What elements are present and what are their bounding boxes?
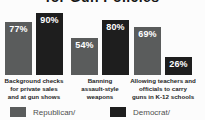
- category-label-0: Background checksfor private salesand at…: [0, 77, 69, 101]
- bar-democrat-2: 26%: [165, 57, 192, 75]
- legend-label-democrat: Democrat/: [133, 108, 170, 117]
- bar-value-label-republican-0: 77%: [5, 22, 32, 34]
- legend-item-republican: Republican/: [10, 107, 75, 117]
- bar-republican-0: 77%: [5, 22, 32, 75]
- democrat-swatch: [110, 107, 126, 117]
- bar-value-label-democrat-1: 80%: [102, 20, 129, 32]
- legend-item-democrat: Democrat/: [110, 107, 170, 117]
- republican-swatch: [10, 107, 26, 117]
- bar-democrat-1: 80%: [102, 20, 129, 75]
- bar-value-label-republican-2: 69%: [134, 27, 161, 39]
- bar-republican-2: 69%: [134, 27, 161, 75]
- bar-democrat-0: 90%: [36, 13, 63, 75]
- bar-value-label-republican-1: 54%: [71, 38, 98, 50]
- category-label-1: Banningassault-styleweapons: [65, 77, 135, 101]
- bar-value-label-democrat-2: 26%: [165, 57, 192, 69]
- chart-title: for Gun Policies: [0, 0, 205, 5]
- category-label-2: Allowing teachers andofficials to carryg…: [128, 77, 198, 101]
- gun-policies-bar-chart: for Gun Policies 77%90%54%80%69%26% Back…: [0, 0, 205, 120]
- bar-republican-1: 54%: [71, 38, 98, 75]
- bar-value-label-democrat-0: 90%: [36, 13, 63, 25]
- legend-label-republican: Republican/: [33, 108, 75, 117]
